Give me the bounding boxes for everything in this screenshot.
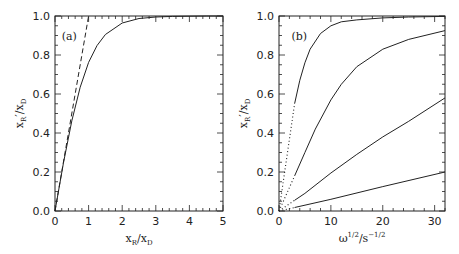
x-axis-label: ω1/2/s−1/2 (339, 231, 386, 245)
y-axis-label: xR′/xD (237, 98, 252, 128)
x-tick-label: 20 (376, 215, 390, 228)
series-line (295, 98, 445, 200)
y-tick-label: 0.2 (33, 166, 51, 179)
x-tick-label: 5 (220, 215, 227, 228)
x-tick-label: 0 (52, 215, 59, 228)
y-tick-label: 0.0 (33, 205, 51, 218)
panel-label: (b) (291, 30, 307, 43)
x-tick-label: 1 (85, 215, 92, 228)
figure: 0123450.00.20.40.60.81.0(a)xR/xDxR′/xD 0… (0, 0, 459, 254)
x-tick-label: 0 (276, 215, 283, 228)
series-line (295, 172, 445, 208)
panel-a: 0123450.00.20.40.60.81.0(a)xR/xDxR′/xD (13, 10, 227, 247)
x-tick-label: 4 (186, 215, 193, 228)
y-tick-label: 0.6 (257, 88, 275, 101)
y-tick-label: 1.0 (33, 10, 51, 23)
y-tick-label: 1.0 (257, 10, 275, 23)
panel-b: 01020300.00.20.40.60.81.0(b)ω1/2/s−1/2xR… (237, 10, 445, 245)
x-tick-label: 3 (152, 215, 159, 228)
y-tick-label: 0.4 (33, 127, 51, 140)
series-line (55, 16, 223, 211)
x-axis-label: xR/xD (125, 232, 152, 247)
y-tick-label: 0.8 (33, 49, 51, 62)
y-axis-label: xR′/xD (13, 98, 28, 128)
y-tick-label: 0.0 (257, 205, 275, 218)
series-line (295, 31, 445, 176)
x-tick-label: 30 (428, 215, 442, 228)
panel-label: (a) (62, 30, 77, 43)
y-tick-label: 0.2 (257, 166, 275, 179)
y-tick-label: 0.4 (257, 127, 275, 140)
y-tick-label: 0.6 (33, 88, 51, 101)
series-line (295, 16, 445, 103)
series-dotted-segment (279, 104, 295, 211)
plot-frame (55, 16, 223, 211)
x-tick-label: 2 (119, 215, 126, 228)
x-tick-label: 10 (324, 215, 338, 228)
y-tick-label: 0.8 (257, 49, 275, 62)
series-dotted-segment (279, 208, 295, 212)
